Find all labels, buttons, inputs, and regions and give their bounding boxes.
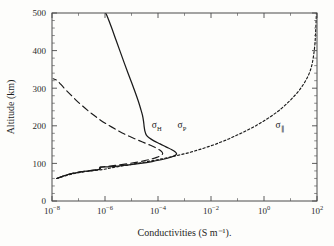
x-tick-exponent-1: −6 [106,204,114,211]
label-subscript-sigma_P: P [183,125,187,132]
x-tick-exponent-4: 0 [267,204,270,211]
y-axis-title: Altitude (km) [5,80,17,135]
label-subscript-sigma_H: H [157,125,162,132]
x-tick-exponent-2: −4 [159,204,167,211]
label-subscript-sigma_parallel: ∥ [281,125,285,133]
x-tick-exponent-3: −2 [212,204,219,211]
y-tick-label-1: 100 [33,159,47,169]
y-tick-label-0: 0 [42,196,47,206]
x-tick-exponent-0: −8 [53,204,60,211]
x-tick-exponent-5: 2 [320,204,323,211]
y-tick-label-4: 400 [33,46,47,56]
y-tick-label-5: 500 [33,8,47,18]
y-tick-label-2: 200 [33,121,47,131]
conductivity-altitude-plot: 10−810−610−410−2100102 0100200300400500 … [0,0,334,246]
y-tick-label-3: 300 [33,84,47,94]
x-axis-title: Conductivities (S m⁻¹). [138,227,232,239]
figure-container: 10−810−610−410−2100102 0100200300400500 … [0,0,334,246]
